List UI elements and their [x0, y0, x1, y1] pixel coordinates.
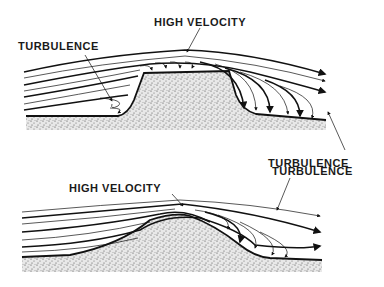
bottom-panel: HIGH VELOCITY TURBULENCE [22, 165, 353, 272]
airflow-diagram: HIGH VELOCITY TURBULENCE TURBULENCE HIGH… [0, 0, 384, 287]
label-turbulence-top-left: TURBULENCE [18, 40, 99, 52]
top-panel: HIGH VELOCITY TURBULENCE TURBULENCE [18, 16, 349, 169]
label-turbulence-bottom: TURBULENCE [272, 165, 353, 177]
label-high-velocity-top: HIGH VELOCITY [154, 16, 246, 28]
label-high-velocity-bottom: HIGH VELOCITY [69, 182, 161, 194]
